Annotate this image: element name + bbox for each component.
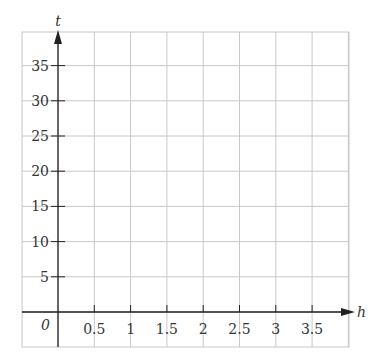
x-tick-label: 1	[126, 321, 135, 337]
coordinate-grid-chart: 0.511.522.533.551015202530350ht	[0, 0, 374, 362]
y-tick-label: 15	[31, 198, 49, 214]
y-tick-label: 30	[31, 93, 49, 109]
x-tick-label: 0.5	[83, 321, 105, 337]
tick-labels: 0.511.522.533.551015202530350ht	[31, 13, 366, 337]
origin-label: 0	[41, 317, 50, 333]
y-tick-label: 35	[31, 58, 49, 74]
x-tick-label: 3	[271, 321, 280, 337]
x-tick-label: 2	[199, 321, 208, 337]
x-tick-label: 1.5	[156, 321, 178, 337]
y-tick-label: 25	[31, 128, 49, 144]
x-axis-label: h	[357, 304, 366, 320]
y-axis-label: t	[55, 13, 61, 29]
y-tick-label: 10	[31, 234, 49, 250]
grid-lines	[22, 32, 349, 347]
axes	[22, 30, 355, 347]
y-tick-label: 20	[31, 163, 49, 179]
y-tick-label: 5	[40, 269, 49, 285]
x-tick-label: 2.5	[228, 321, 250, 337]
grid-border	[22, 32, 349, 347]
x-tick-label: 3.5	[301, 321, 323, 337]
